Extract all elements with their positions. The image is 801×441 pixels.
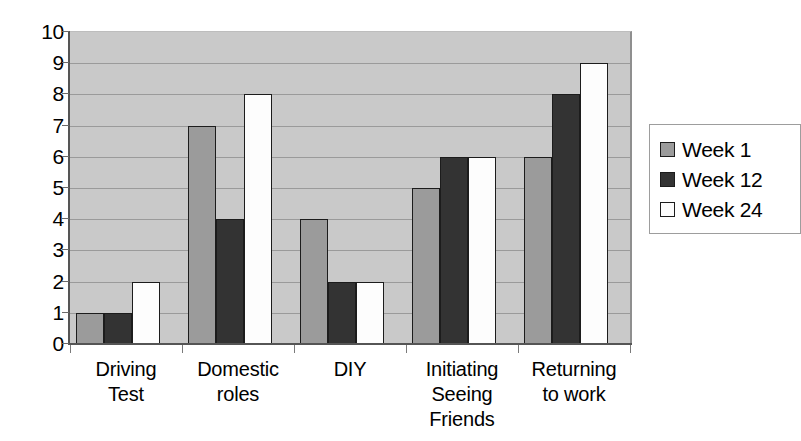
y-tick-mark	[62, 31, 69, 32]
bar[interactable]	[76, 313, 104, 344]
x-tick-mark	[182, 345, 183, 353]
bar-group	[182, 32, 294, 344]
x-tick-mark	[406, 345, 407, 353]
x-tick-label-line: Returning	[518, 357, 630, 382]
bar[interactable]	[104, 313, 132, 344]
bar[interactable]	[216, 219, 244, 344]
legend-item[interactable]: Week 24	[660, 194, 800, 224]
x-tick-mark	[70, 345, 71, 353]
legend-label: Week 1	[682, 139, 751, 160]
legend: Week 1Week 12Week 24	[649, 124, 801, 234]
y-tick-label: 2	[26, 270, 64, 291]
bar[interactable]	[328, 282, 356, 344]
y-tick-mark	[62, 249, 69, 250]
y-tick-mark	[62, 125, 69, 126]
bar[interactable]	[440, 157, 468, 344]
y-tick-mark	[62, 156, 69, 157]
y-tick-label: 10	[26, 21, 64, 42]
bar-group	[406, 32, 518, 344]
legend-item[interactable]: Week 1	[660, 134, 800, 164]
legend-swatch-icon	[660, 172, 675, 187]
legend-swatch-icon	[660, 142, 675, 157]
y-tick-label: 1	[26, 301, 64, 322]
x-tick-label-line: to work	[518, 382, 630, 407]
legend-swatch-icon	[660, 202, 675, 217]
x-tick-label: Domesticroles	[182, 357, 294, 407]
y-tick-label: 3	[26, 239, 64, 260]
y-tick-mark	[62, 312, 69, 313]
x-tick-label: InitiatingSeeingFriends	[406, 357, 518, 432]
y-tick-label: 4	[26, 208, 64, 229]
legend-label: Week 12	[682, 169, 762, 190]
bars-layer	[70, 32, 630, 344]
x-axis-tick-labels: DrivingTestDomesticrolesDIYInitiatingSee…	[70, 357, 630, 441]
legend-label: Week 24	[682, 199, 762, 220]
bar[interactable]	[356, 282, 384, 344]
x-tick-label: DrivingTest	[70, 357, 182, 407]
y-tick-mark	[62, 93, 69, 94]
x-tick-mark	[630, 345, 631, 353]
y-tick-label: 0	[26, 333, 64, 354]
y-tick-label: 5	[26, 177, 64, 198]
bar[interactable]	[300, 219, 328, 344]
bar[interactable]	[188, 126, 216, 344]
x-tick-label-line: Driving	[70, 357, 182, 382]
x-tick-label-line: roles	[182, 382, 294, 407]
bar[interactable]	[524, 157, 552, 344]
y-tick-mark	[62, 343, 69, 344]
plot-area	[70, 31, 632, 344]
bar-group	[294, 32, 406, 344]
x-tick-label-line: Test	[70, 382, 182, 407]
bar[interactable]	[552, 94, 580, 344]
bar[interactable]	[244, 94, 272, 344]
x-tick-label-line: Initiating	[406, 357, 518, 382]
y-tick-label: 8	[26, 83, 64, 104]
x-tick-label-line: DIY	[294, 357, 406, 382]
y-axis-tick-labels: 109876543210	[26, 22, 64, 344]
x-tick-label: Returningto work	[518, 357, 630, 407]
x-tick-mark	[518, 345, 519, 353]
x-tick-label-line: Domestic	[182, 357, 294, 382]
x-tick-mark	[294, 345, 295, 353]
bar[interactable]	[132, 282, 160, 344]
y-tick-label: 6	[26, 145, 64, 166]
y-tick-label: 7	[26, 114, 64, 135]
bar[interactable]	[580, 63, 608, 344]
x-tick-label: DIY	[294, 357, 406, 382]
y-tick-mark	[62, 281, 69, 282]
y-tick-label: 9	[26, 52, 64, 73]
legend-item[interactable]: Week 12	[660, 164, 800, 194]
x-tick-label-line: Friends	[406, 407, 518, 432]
bar[interactable]	[468, 157, 496, 344]
bar[interactable]	[412, 188, 440, 344]
x-axis-line	[68, 343, 632, 345]
y-tick-mark	[62, 218, 69, 219]
bar-group	[518, 32, 630, 344]
bar-group	[70, 32, 182, 344]
y-tick-mark	[62, 187, 69, 188]
x-tick-label-line: Seeing	[406, 382, 518, 407]
y-tick-mark	[62, 62, 69, 63]
